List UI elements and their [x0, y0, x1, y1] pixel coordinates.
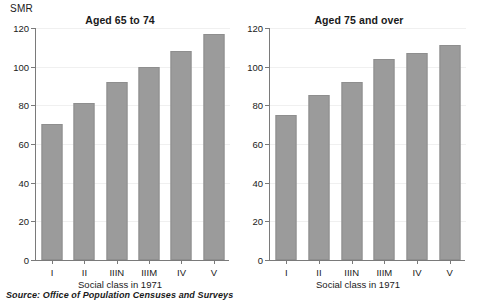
bar[interactable] — [341, 82, 362, 260]
source-note: Source: Office of Population Censuses an… — [6, 290, 233, 300]
x-axis-title: Social class in 1971 — [242, 279, 474, 290]
x-axis-tick-label: IIIN — [344, 267, 359, 278]
y-axis-tick-label: 40 — [252, 177, 263, 188]
bar-group: IV — [165, 28, 197, 260]
chart-panel-aged-75-and-over: Aged 75 and over 020406080100120 IIIIIIN… — [240, 0, 480, 302]
bar-group: IIIN — [101, 28, 133, 260]
bar[interactable] — [308, 95, 329, 260]
bar-group: IIIM — [133, 28, 165, 260]
bar[interactable] — [42, 124, 63, 260]
x-axis-tick — [117, 260, 118, 264]
y-axis-tick — [265, 67, 269, 68]
x-axis-tick-label: IIIM — [141, 267, 157, 278]
y-axis-tick — [265, 28, 269, 29]
y-axis-tick — [265, 144, 269, 145]
x-axis-tick-label: II — [82, 267, 87, 278]
bar-series: IIIIIINIIIMIVV — [36, 28, 230, 260]
y-axis-tick — [265, 260, 269, 261]
bar-group: IV — [401, 28, 434, 260]
x-axis-tick — [319, 260, 320, 264]
y-axis-tick-label: 80 — [18, 100, 29, 111]
x-axis-line — [269, 260, 465, 261]
y-axis-tick — [31, 105, 35, 106]
x-axis-tick — [384, 260, 385, 264]
bar-group: II — [68, 28, 100, 260]
y-axis-tick-label: 120 — [13, 23, 29, 34]
y-axis-tick — [31, 183, 35, 184]
x-axis-tick — [149, 260, 150, 264]
bar[interactable] — [439, 45, 460, 260]
plot-area: 020406080100120 IIIIIINIIIMIVV — [36, 28, 230, 260]
x-axis-title: Social class in 1971 — [0, 279, 240, 290]
x-axis-tick-label: II — [316, 267, 321, 278]
y-axis-tick-label: 40 — [18, 177, 29, 188]
bar-group: V — [198, 28, 230, 260]
bar-group: IIIN — [335, 28, 368, 260]
bar[interactable] — [106, 82, 127, 260]
y-axis-tick-label: 20 — [252, 216, 263, 227]
bar[interactable] — [374, 59, 395, 260]
x-axis-tick — [450, 260, 451, 264]
x-axis-tick-label: I — [51, 267, 54, 278]
y-axis-tick-label: 20 — [18, 216, 29, 227]
x-axis-tick-label: V — [446, 267, 452, 278]
bar[interactable] — [406, 53, 427, 260]
plot-area: 020406080100120 IIIIIINIIIMIVV — [270, 28, 466, 260]
y-axis-tick — [265, 221, 269, 222]
y-axis-tick — [31, 144, 35, 145]
y-axis-tick — [31, 28, 35, 29]
y-axis-tick-label: 120 — [247, 23, 263, 34]
x-axis-tick-label: IIIN — [109, 267, 124, 278]
x-axis-tick-label: I — [285, 267, 288, 278]
bar[interactable] — [276, 115, 297, 260]
y-axis-tick-label: 0 — [258, 255, 263, 266]
x-axis-tick — [214, 260, 215, 264]
x-axis-line — [35, 260, 229, 261]
y-axis-tick-label: 100 — [13, 61, 29, 72]
y-axis-tick-label: 80 — [252, 100, 263, 111]
chart-title: Aged 65 to 74 — [0, 14, 240, 26]
bar-series: IIIIIINIIIMIVV — [270, 28, 466, 260]
bar[interactable] — [139, 67, 160, 260]
x-axis-tick — [417, 260, 418, 264]
y-axis-tick-label: 60 — [252, 139, 263, 150]
x-axis-tick-label: V — [211, 267, 217, 278]
chart-title: Aged 75 and over — [246, 14, 472, 26]
y-axis-tick — [31, 260, 35, 261]
chart-panel-aged-65-to-74: Aged 65 to 74 020406080100120 IIIIIINIII… — [0, 0, 240, 302]
bar[interactable] — [203, 34, 224, 260]
bar-group: I — [270, 28, 303, 260]
x-axis-tick — [84, 260, 85, 264]
x-axis-tick-label: IV — [177, 267, 186, 278]
bar-group: I — [36, 28, 68, 260]
y-axis-tick — [31, 221, 35, 222]
x-axis-tick — [352, 260, 353, 264]
x-axis-tick-label: IIIM — [376, 267, 392, 278]
y-axis-tick — [265, 183, 269, 184]
bar-group: V — [433, 28, 466, 260]
bar[interactable] — [171, 51, 192, 260]
y-axis-tick-label: 60 — [18, 139, 29, 150]
y-axis-tick — [265, 105, 269, 106]
x-axis-tick — [181, 260, 182, 264]
bar-group: IIIM — [368, 28, 401, 260]
x-axis-tick — [286, 260, 287, 264]
bar[interactable] — [74, 103, 95, 260]
x-axis-tick-label: IV — [412, 267, 421, 278]
y-axis-tick-label: 0 — [24, 255, 29, 266]
y-axis-tick — [31, 67, 35, 68]
bar-group: II — [303, 28, 336, 260]
y-axis-tick-label: 100 — [247, 61, 263, 72]
x-axis-tick — [52, 260, 53, 264]
